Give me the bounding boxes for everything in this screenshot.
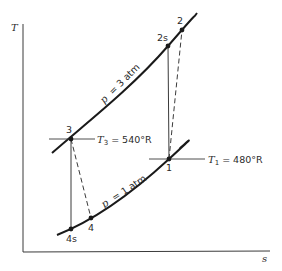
state-label-2: 2 [177,15,183,26]
y-axis-label: T [11,22,19,33]
state-point-1 [167,157,172,162]
state-point-4s [69,227,74,232]
state-label-2s: 2s [157,32,168,43]
ts-diagram: T s p = 3 atm p = 1 atm 1 2 2s 3 4 4s T3… [0,0,282,271]
state-point-3 [69,137,74,142]
process-3-4-line [71,139,91,218]
x-axis-label: s [262,253,267,264]
state-label-4s: 4s [66,233,77,244]
isobar-high-label: p = 3 atm [98,61,142,105]
state-label-3: 3 [66,124,72,135]
t1-annotation: T1= 480°R [208,154,263,167]
state-label-4: 4 [88,222,94,233]
isobar-low-label: p = 1 atm [99,173,148,210]
process-1-2-line [169,30,182,159]
state-point-4 [89,216,94,221]
t3-annotation: T3= 540°R [97,134,152,147]
state-label-1: 1 [166,162,172,173]
process-1-2s-line [168,46,169,159]
x-axis [23,251,270,252]
state-point-2 [180,28,185,33]
state-point-2s [166,44,171,49]
